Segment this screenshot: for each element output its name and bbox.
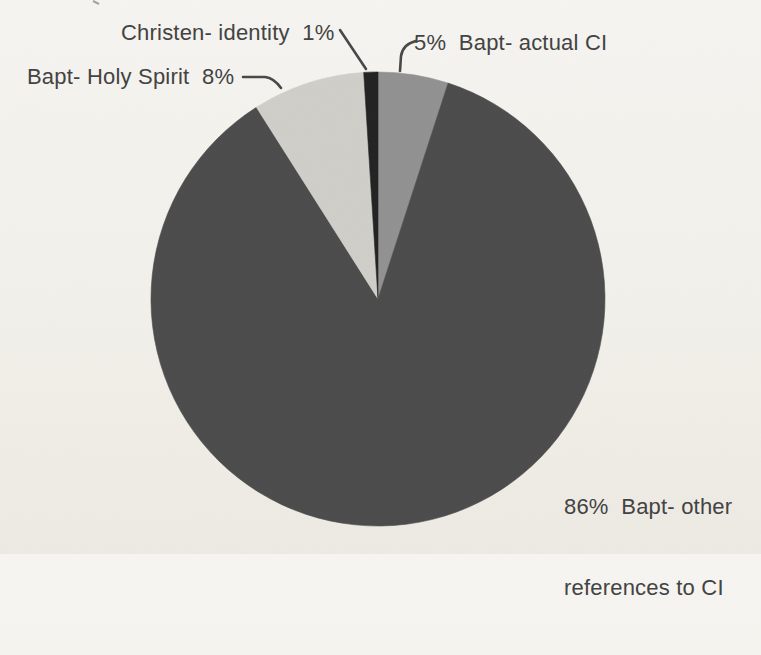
label-christen-identity: Christen- identity 1% [121,20,335,46]
label-bapt-other-references: 86% Bapt- other references to CI [564,439,732,655]
label-bapt-actual-ci: 5% Bapt- actual CI [414,30,607,56]
label-bapt-other-line1: 86% Bapt- other [564,493,732,520]
label-bapt-other-line2: references to CI [564,574,732,601]
label-bapt-holy-spirit: Bapt- Holy Spirit 8% [27,64,234,90]
